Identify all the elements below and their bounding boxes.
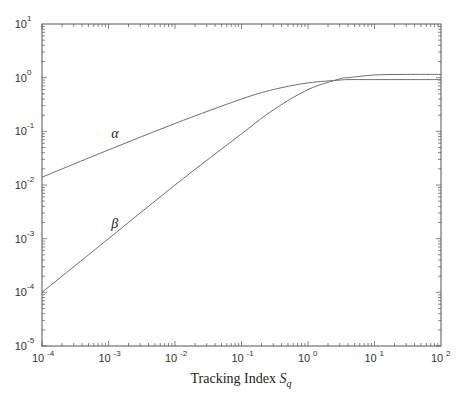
curve-beta (42, 74, 441, 292)
x-tick-exponent: 2 (446, 349, 451, 358)
y-tick-label: 10 (15, 179, 27, 191)
log-log-chart: αβ 10-410-310-210-1100101102 10110010-11… (0, 0, 463, 395)
x-tick-label: 10 (165, 352, 177, 364)
x-tick-exponent: 0 (313, 349, 318, 358)
x-tick-exponent: -1 (247, 349, 255, 358)
y-tick-exponent: 0 (27, 68, 32, 77)
y-tick-exponent: -3 (27, 229, 35, 238)
y-tick-label: 10 (15, 125, 27, 137)
axis-ticks (42, 24, 441, 346)
curve-alpha (42, 80, 441, 178)
x-axis-title: Tracking Index Sq (191, 371, 292, 389)
y-tick-label: 10 (15, 233, 27, 245)
x-tick-exponent: -3 (114, 349, 122, 358)
y-tick-label: 10 (15, 72, 27, 84)
curve-label-beta: β (110, 216, 118, 231)
x-tick-label: 10 (298, 352, 310, 364)
y-tick-exponent: 1 (27, 14, 32, 23)
x-tick-label: 10 (32, 352, 44, 364)
y-tick-labels: 10110010-110-210-310-410-5 (15, 14, 35, 352)
curves (42, 74, 441, 292)
x-tick-label: 10 (364, 352, 376, 364)
y-tick-exponent: -2 (27, 175, 35, 184)
y-tick-exponent: -1 (27, 121, 35, 130)
y-tick-exponent: -4 (27, 282, 35, 291)
y-tick-exponent: -5 (27, 336, 35, 345)
y-tick-label: 10 (15, 340, 27, 352)
y-tick-label: 10 (15, 18, 27, 30)
x-tick-exponent: 1 (380, 349, 385, 358)
y-tick-label: 10 (15, 286, 27, 298)
x-tick-labels: 10-410-310-210-1100101102 (32, 349, 451, 364)
x-tick-label: 10 (431, 352, 443, 364)
x-tick-label: 10 (98, 352, 110, 364)
plot-frame (42, 24, 441, 346)
x-tick-exponent: -4 (47, 349, 55, 358)
curve-labels: αβ (110, 126, 119, 231)
curve-label-alpha: α (111, 126, 119, 141)
x-tick-label: 10 (231, 352, 243, 364)
x-tick-exponent: -2 (180, 349, 188, 358)
